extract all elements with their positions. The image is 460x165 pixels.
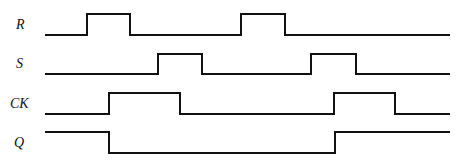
signal-s: S: [16, 54, 450, 74]
signal-r: R: [15, 14, 450, 35]
signal-label-ck: CK: [10, 96, 29, 111]
signal-ck: CK: [10, 93, 450, 114]
waveform-ck: [45, 93, 450, 114]
signal-label-s: S: [16, 56, 23, 71]
signal-label-q: Q: [14, 135, 24, 150]
waveform-r: [45, 14, 450, 35]
signal-q: Q: [14, 132, 450, 153]
signal-label-r: R: [15, 17, 25, 32]
waveform-s: [45, 54, 450, 74]
waveform-q: [45, 132, 450, 153]
timing-diagram: R S CK Q: [0, 0, 460, 165]
